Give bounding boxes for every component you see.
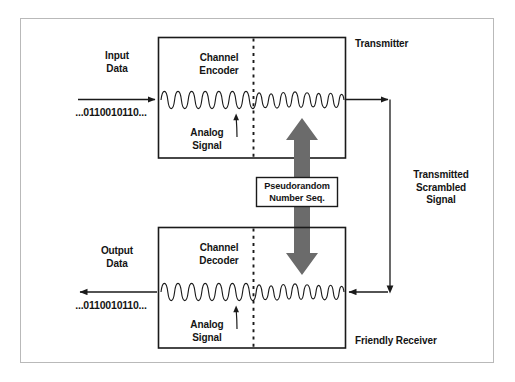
up-arrow-icon (286, 118, 318, 177)
diagram-canvas: Input Data ...0110010110... Channel Enco… (0, 0, 515, 382)
input-bits-label: ...0110010110... (68, 106, 154, 119)
pseudorandom-label: Pseudorandom Number Seq. (257, 181, 337, 205)
transmitter-label: Transmitter (355, 38, 445, 51)
transmitted-scrambled-signal-label: Transmitted Scrambled Signal (396, 169, 486, 207)
waveform-icon-bottom (161, 283, 344, 300)
curved-callout-arrowhead-top (233, 114, 239, 121)
channel-encoder-label: Channel Encoder (179, 52, 259, 77)
curved-callout-arrowhead-bottom (233, 306, 239, 313)
friendly-receiver-label: Friendly Receiver (355, 335, 465, 348)
output-data-label: Output Data (86, 245, 148, 270)
down-arrow-icon (286, 207, 318, 275)
analog-signal-label-bottom: Analog Signal (176, 319, 238, 344)
input-data-label: Input Data (86, 50, 148, 75)
channel-decoder-label: Channel Decoder (179, 242, 259, 267)
output-bits-label: ...0110010110... (68, 299, 154, 312)
analog-signal-label-top: Analog Signal (176, 127, 238, 152)
waveform-icon-top (161, 91, 344, 108)
